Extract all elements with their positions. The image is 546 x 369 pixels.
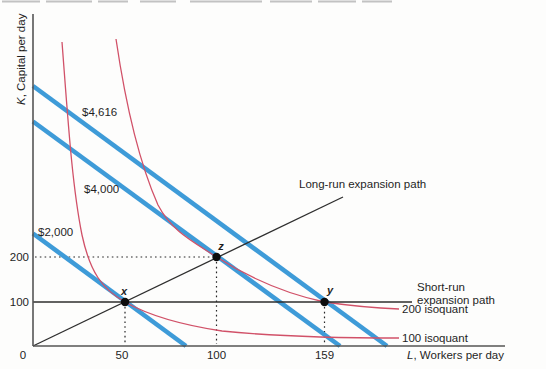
point-x-dot — [121, 298, 129, 306]
long-run-path-label: Long-run expansion path — [299, 178, 426, 190]
y-axis-title: K, Capital per day — [15, 13, 27, 105]
x-tick-0: 0 — [20, 349, 26, 361]
isoquant-200-curve — [116, 39, 399, 309]
isocost-2000-label: $2,000 — [38, 226, 73, 238]
point-y-label: y — [326, 284, 334, 296]
cropped-text-fragment — [2, 1, 392, 3]
short-run-path-label-line1: Short-run — [417, 281, 465, 293]
y-tick-100: 100 — [10, 296, 29, 308]
y-tick-200: 200 — [10, 251, 29, 263]
isocost-4616-label: $4,616 — [82, 106, 117, 118]
isoquant-100-label: 100 isoquant — [402, 332, 469, 344]
isoquant-200-label: 200 isoquant — [402, 303, 469, 315]
figure-expansion-paths: x z y $4,616 $4,000 $2,000 Long-run expa… — [0, 0, 546, 369]
point-z-label: z — [217, 240, 224, 252]
isocost-2000-line — [33, 234, 186, 347]
x-tick-159: 159 — [315, 349, 334, 361]
point-x-label: x — [120, 285, 128, 297]
point-y-dot — [320, 298, 328, 306]
isocost-4000-line — [33, 122, 340, 347]
x-axis-title: L, Workers per day — [407, 349, 504, 361]
x-tick-50: 50 — [116, 349, 129, 361]
x-tick-100: 100 — [207, 349, 226, 361]
isocost-4000-label: $4,000 — [84, 183, 119, 195]
isocost-4616-line — [33, 86, 387, 346]
point-z-dot — [212, 253, 220, 261]
chart-canvas: x z y $4,616 $4,000 $2,000 Long-run expa… — [0, 0, 546, 369]
